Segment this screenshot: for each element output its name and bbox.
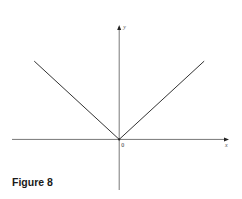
x-axis-label: x	[224, 142, 228, 148]
x-axis-arrow-icon	[224, 137, 229, 141]
origin-point	[118, 138, 120, 140]
series-line-right-branch	[119, 61, 204, 139]
figure-caption: Figure 8	[12, 176, 53, 188]
figure-chart: x y 0	[0, 0, 242, 199]
series-line-left-branch	[34, 61, 119, 139]
origin-label: 0	[121, 142, 124, 148]
y-axis-arrow-icon	[117, 25, 121, 30]
y-axis-label: y	[122, 24, 126, 30]
